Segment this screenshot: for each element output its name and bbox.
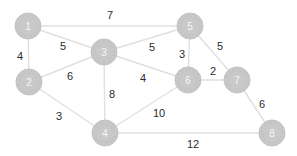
edge-weight-label: 3 (179, 48, 185, 60)
graph-node-label: 4 (102, 128, 108, 139)
edge-weight-label: 2 (210, 65, 216, 77)
graph-node: 5 (177, 13, 203, 39)
graph-edge (29, 82, 105, 133)
graph-node-label: 1 (25, 21, 31, 32)
edge-weight-label: 8 (109, 88, 115, 100)
edge-weight-label: 3 (56, 110, 62, 122)
edge-weight-label: 5 (217, 40, 223, 52)
graph-edge (105, 80, 188, 133)
graph-diagram: 123456787546535248310612 (0, 0, 297, 156)
graph-canvas: 123456787546535248310612 (0, 0, 297, 156)
graph-node-label: 5 (187, 21, 193, 32)
graph-node: 1 (15, 13, 41, 39)
graph-node: 2 (16, 69, 42, 95)
edge-weight-label: 4 (17, 50, 23, 62)
graph-node-label: 7 (234, 75, 240, 86)
graph-node-label: 6 (185, 75, 191, 86)
graph-node-label: 3 (101, 47, 107, 58)
graph-node-label: 2 (26, 77, 32, 88)
edge-weight-label: 5 (60, 40, 66, 52)
edge-weight-label: 6 (67, 70, 73, 82)
graph-node-label: 8 (269, 128, 275, 139)
graph-node: 4 (92, 120, 118, 146)
edge-weight-label: 4 (140, 72, 146, 84)
graph-node: 3 (91, 39, 117, 65)
edge-weight-label: 5 (149, 41, 155, 53)
graph-node: 7 (224, 67, 250, 93)
edge-weight-label: 10 (153, 107, 165, 119)
graph-node: 8 (259, 120, 285, 146)
edge-weight-label: 7 (107, 9, 113, 21)
edge-weight-label: 6 (259, 98, 265, 110)
edge-weight-label: 12 (187, 138, 199, 150)
graph-node: 6 (175, 67, 201, 93)
